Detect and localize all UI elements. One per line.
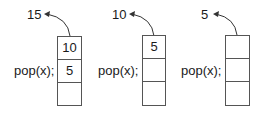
stack: 5: [142, 35, 166, 106]
pop-statement: pop(x);: [98, 64, 138, 78]
stack-panel-1: 15 pop(x); 10 5: [0, 0, 90, 114]
stack: 10 5: [57, 36, 82, 106]
stack-panel-3: 5 pop(x);: [171, 0, 261, 114]
stack-cell: 5: [143, 36, 165, 59]
stack-cell: [226, 82, 249, 105]
stack-panel-2: 10 pop(x); 5: [85, 0, 175, 114]
stack: [225, 35, 250, 106]
stack-cell: [58, 83, 81, 106]
pop-statement: pop(x);: [181, 64, 221, 78]
stack-cell: 10: [58, 37, 81, 60]
stack-cell: 5: [58, 60, 81, 83]
pop-statement: pop(x);: [14, 64, 54, 78]
stack-cell: [226, 36, 249, 59]
curved-arrow-icon: [171, 0, 261, 40]
curved-arrow-icon: [0, 0, 90, 40]
stack-cell: [143, 82, 165, 105]
stack-cell: [143, 59, 165, 82]
stack-cell: [226, 59, 249, 82]
curved-arrow-icon: [85, 0, 175, 40]
